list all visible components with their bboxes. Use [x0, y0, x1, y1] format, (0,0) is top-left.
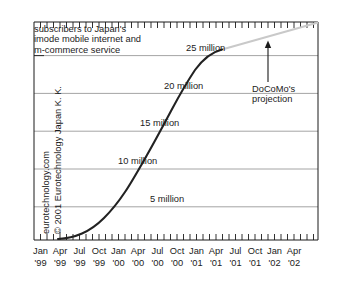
- xtick-month: Apr: [277, 246, 311, 258]
- chart-title-line-2: imode mobile internet and: [34, 34, 141, 44]
- watermark-copyright: © 2001 Eurotechnology Japan K. K.: [53, 86, 63, 234]
- projection-annotation-line-1: DoCoMo's: [252, 84, 295, 94]
- ytick-label-20m: 20 million: [164, 81, 203, 91]
- watermark-site: eurotechnology.com: [41, 151, 51, 234]
- imode-subscribers-chart: subscribers to Japan's imode mobile inte…: [0, 0, 339, 287]
- projection-annotation-line-2: projection: [252, 94, 295, 104]
- ytick-label-10m: 10 million: [118, 156, 157, 166]
- chart-title-line-3: m-commerce service: [34, 45, 141, 55]
- ytick-label-5m: 5 million: [150, 194, 184, 204]
- chart-title: subscribers to Japan's imode mobile inte…: [34, 24, 141, 55]
- xtick-label: Apr'02: [277, 246, 311, 269]
- projection-annotation: DoCoMo's projection: [252, 84, 295, 105]
- ytick-label-25m: 25 million: [186, 43, 225, 53]
- xtick-year: '02: [277, 258, 311, 270]
- chart-title-line-1: subscribers to Japan's: [34, 24, 141, 34]
- ytick-label-15m: 15 million: [140, 118, 179, 128]
- xaxis-labels: Jan'99Apr'99Jul'99Oct'99Jan'00Apr'00Jul'…: [0, 246, 339, 282]
